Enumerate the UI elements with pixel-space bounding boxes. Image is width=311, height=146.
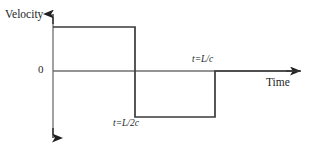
y-axis-zero-tick-label: 0 <box>38 64 44 75</box>
velocity-time-diagram: Velocity Time 0 t=L/c t=L/2c <box>0 0 311 146</box>
velocity-waveform <box>53 27 301 117</box>
annotation-t-equals-l-over-2c: t=L/2c <box>113 119 139 129</box>
plot-area <box>0 0 311 146</box>
x-axis-label: Time <box>266 77 290 89</box>
y-axis-label: Velocity <box>5 9 43 21</box>
annotation-t-equals-l-over-c: t=L/c <box>192 55 213 65</box>
